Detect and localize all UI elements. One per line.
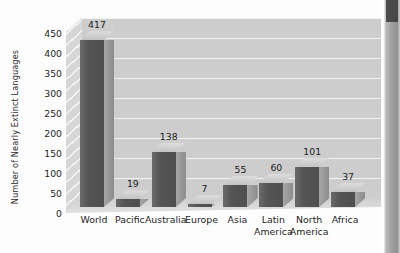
bar-top-face xyxy=(331,183,365,192)
x-axis-category-labels: WorldPacificAustraliaEuropeAsiaLatinAmer… xyxy=(66,214,381,250)
bar-side-face xyxy=(319,167,329,207)
data-label-australia: 138 xyxy=(160,131,178,142)
bar-front-face xyxy=(223,185,247,207)
y-axis-tick-250: 250 xyxy=(44,108,62,119)
bar-front-face xyxy=(331,192,355,207)
bar-africa xyxy=(331,192,355,207)
data-label-north-america: 101 xyxy=(303,146,321,157)
bar-top-face xyxy=(152,143,186,152)
bar-side-face xyxy=(283,183,293,207)
bar-side-face xyxy=(355,192,365,207)
data-label-europe: 7 xyxy=(202,183,208,194)
y-axis-tick-400: 400 xyxy=(44,48,62,59)
data-label-world: 417 xyxy=(88,19,106,30)
bar-front-face xyxy=(259,183,283,207)
y-axis-tick-200: 200 xyxy=(44,128,62,139)
plot-area: 417191387556010137 xyxy=(66,18,381,213)
bar-asia xyxy=(223,185,247,207)
chart-figure: Number of Nearly Extinct Languages 05010… xyxy=(0,0,400,253)
data-label-latin-america: 60 xyxy=(270,162,282,173)
bar-latin-america xyxy=(259,183,283,207)
x-label-latin-america: LatinAmerica xyxy=(254,214,293,237)
bar-front-face xyxy=(152,152,176,207)
x-label-pacific: Pacific xyxy=(115,214,145,226)
y-axis-tick-300: 300 xyxy=(44,88,62,99)
page-scan-edge xyxy=(382,0,400,253)
y-axis-tick-labels: 050100150200250300350400450 xyxy=(26,0,62,253)
bar-side-face xyxy=(212,204,222,207)
x-label-europe: Europe xyxy=(185,214,218,226)
bar-side-face xyxy=(247,185,257,207)
y-axis-title-text: Number of Nearly Extinct Languages xyxy=(10,49,20,203)
bar-front-face xyxy=(295,167,319,207)
y-axis-tick-0: 0 xyxy=(56,208,62,219)
bar-top-face xyxy=(116,190,150,199)
y-axis-tick-450: 450 xyxy=(44,28,62,39)
bar-series xyxy=(66,18,381,213)
x-label-asia: Asia xyxy=(228,214,248,226)
bar-front-face xyxy=(80,40,104,207)
data-label-pacific: 19 xyxy=(127,178,139,189)
y-axis-tick-350: 350 xyxy=(44,68,62,79)
x-label-north-america: NorthAmerica xyxy=(290,214,329,237)
bar-pacific xyxy=(116,199,140,207)
bar-top-face xyxy=(295,158,329,167)
y-axis-tick-150: 150 xyxy=(44,148,62,159)
bar-north-america xyxy=(295,167,319,207)
bar-front-face xyxy=(116,199,140,207)
x-label-world: World xyxy=(81,214,108,226)
y-axis-tick-50: 50 xyxy=(50,188,62,199)
x-label-australia: Australia xyxy=(145,214,186,226)
bar-front-face xyxy=(188,204,212,207)
y-axis-tick-100: 100 xyxy=(44,168,62,179)
bar-side-face xyxy=(140,199,150,207)
bar-australia xyxy=(152,152,176,207)
bar-top-face xyxy=(188,195,222,204)
bar-top-face xyxy=(80,31,114,40)
bar-side-face xyxy=(104,40,114,207)
x-label-africa: Africa xyxy=(332,214,359,226)
page-scan-edge-shadow xyxy=(386,0,398,22)
bar-top-face xyxy=(259,174,293,183)
y-axis-title: Number of Nearly Extinct Languages xyxy=(4,0,26,253)
data-label-asia: 55 xyxy=(235,164,247,175)
bar-side-face xyxy=(176,152,186,207)
data-label-africa: 37 xyxy=(342,171,354,182)
bar-top-face xyxy=(223,176,257,185)
bar-europe xyxy=(188,204,212,207)
bar-world xyxy=(80,40,104,207)
